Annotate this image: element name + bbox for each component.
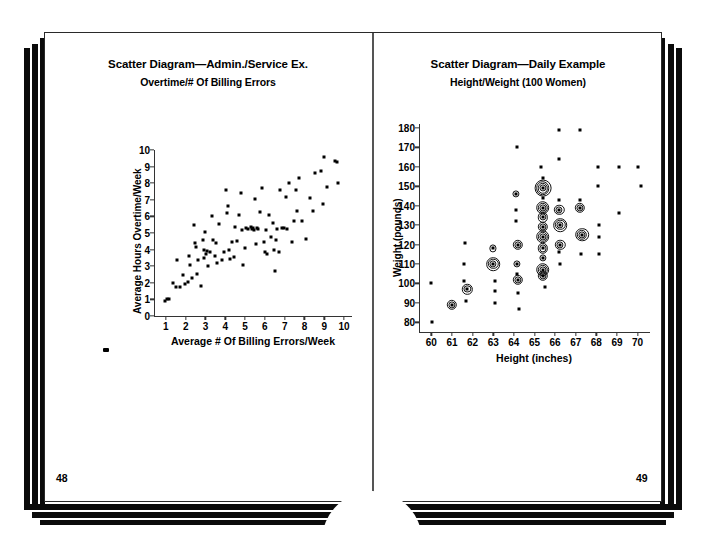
x-tick-label: 61 xyxy=(446,337,457,348)
data-point-ring xyxy=(555,239,565,249)
data-point xyxy=(578,198,581,201)
x-tick-mark xyxy=(472,332,473,336)
data-point-ring xyxy=(553,218,567,232)
y-tick-mark xyxy=(150,216,154,217)
y-tick-mark xyxy=(415,302,419,303)
left-y-axis-line xyxy=(154,150,155,316)
data-point xyxy=(579,253,582,256)
data-point xyxy=(209,251,212,254)
x-tick-mark xyxy=(264,316,265,320)
data-point-ring xyxy=(575,202,585,212)
left-y-axis-title: Average Hours Overtime/Week xyxy=(132,168,143,314)
data-point xyxy=(494,280,497,283)
data-point xyxy=(598,235,601,238)
y-tick-label: 180 xyxy=(393,122,415,133)
data-point xyxy=(297,177,300,180)
x-tick-mark xyxy=(575,332,576,336)
data-point xyxy=(231,241,234,244)
data-point xyxy=(253,197,256,200)
data-point xyxy=(277,251,280,254)
data-point-ring xyxy=(513,239,523,249)
x-tick-label: 1 xyxy=(163,321,169,332)
x-tick-label: 67 xyxy=(570,337,581,348)
data-point xyxy=(274,238,277,241)
data-point xyxy=(326,185,329,188)
data-point xyxy=(201,238,204,241)
data-point-ring xyxy=(513,260,520,267)
x-tick-mark xyxy=(205,316,206,320)
y-tick-mark xyxy=(150,149,154,150)
data-point-ring xyxy=(575,228,589,242)
data-point xyxy=(558,128,561,131)
data-point xyxy=(514,208,517,211)
y-tick-label: 10 xyxy=(134,145,150,156)
x-tick-label: 2 xyxy=(183,321,189,332)
x-tick-label: 60 xyxy=(426,337,437,348)
data-point xyxy=(167,297,170,300)
data-point xyxy=(187,255,190,258)
data-point xyxy=(228,248,231,251)
data-point xyxy=(272,248,275,251)
page-edge-right-2 xyxy=(668,44,674,508)
data-point xyxy=(558,198,561,201)
x-tick-label: 9 xyxy=(321,321,327,332)
data-point xyxy=(226,212,229,215)
data-point xyxy=(295,210,298,213)
data-point xyxy=(236,240,239,243)
left-page: Scatter Diagram—Admin./Service Ex. Overt… xyxy=(44,32,372,502)
data-point xyxy=(196,258,199,261)
data-point-ring xyxy=(554,204,564,214)
data-point xyxy=(175,258,178,261)
data-point xyxy=(241,228,244,231)
y-tick-mark xyxy=(150,199,154,200)
x-tick-label: 63 xyxy=(488,337,499,348)
data-point xyxy=(204,231,207,234)
data-point xyxy=(515,146,518,149)
x-tick-mark xyxy=(616,332,617,336)
x-tick-label: 3 xyxy=(203,321,209,332)
data-point xyxy=(192,223,195,226)
print-artifact-speck xyxy=(103,348,109,352)
data-point xyxy=(254,242,257,245)
data-point xyxy=(242,263,245,266)
data-point xyxy=(234,226,237,229)
data-point-ring xyxy=(486,257,500,271)
data-point xyxy=(494,290,497,293)
y-tick-mark xyxy=(150,183,154,184)
data-point xyxy=(194,246,197,249)
data-point xyxy=(463,280,466,283)
y-tick-mark xyxy=(150,299,154,300)
data-point-ring xyxy=(462,284,472,294)
y-tick-mark xyxy=(150,282,154,283)
data-point xyxy=(430,282,433,285)
data-point xyxy=(558,157,561,160)
data-point xyxy=(514,220,517,223)
y-tick-label: 100 xyxy=(393,278,415,289)
data-point xyxy=(543,286,546,289)
x-tick-mark xyxy=(304,316,305,320)
x-tick-label: 68 xyxy=(591,337,602,348)
x-tick-label: 69 xyxy=(611,337,622,348)
data-point-ring xyxy=(539,255,546,262)
data-point xyxy=(463,262,466,265)
data-point-ring xyxy=(512,190,519,197)
data-point xyxy=(431,321,434,324)
data-point xyxy=(238,213,241,216)
data-point xyxy=(618,212,621,215)
y-tick-mark xyxy=(415,205,419,206)
y-tick-mark xyxy=(150,232,154,233)
data-point xyxy=(216,261,219,264)
x-tick-mark xyxy=(431,332,432,336)
y-tick-mark xyxy=(415,263,419,264)
data-point xyxy=(178,285,181,288)
data-point xyxy=(465,299,468,302)
right-page-number: 49 xyxy=(636,472,648,484)
left-x-axis-title: Average # Of Billing Errors/Week xyxy=(171,335,335,347)
y-tick-mark xyxy=(415,127,419,128)
data-point xyxy=(287,182,290,185)
data-point xyxy=(203,256,206,259)
data-point xyxy=(285,227,288,230)
x-tick-mark xyxy=(343,316,344,320)
data-point xyxy=(273,270,276,273)
data-point xyxy=(323,156,326,159)
